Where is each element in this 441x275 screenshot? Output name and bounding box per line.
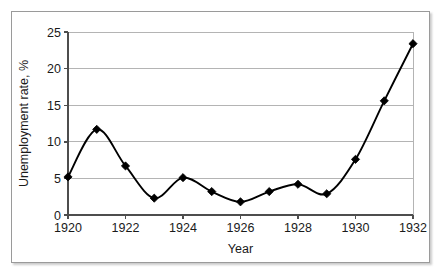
data-point-marker <box>93 125 101 133</box>
data-point-marker <box>150 194 158 202</box>
data-point-marker <box>380 97 388 105</box>
y-axis-title: Unemployment rate, % <box>17 60 31 187</box>
data-point-marker <box>208 187 216 195</box>
axes <box>68 32 413 215</box>
data-markers <box>64 40 417 206</box>
unemployment-line-chart: 05101520251920192219241926192819301932Ye… <box>12 12 429 262</box>
y-tick-label: 15 <box>47 99 61 113</box>
chart-frame: 05101520251920192219241926192819301932Ye… <box>11 11 430 263</box>
x-tick-label: 1924 <box>169 221 197 235</box>
x-tick-label: 1932 <box>399 221 427 235</box>
data-point-marker <box>265 187 273 195</box>
data-point-marker <box>409 40 417 48</box>
x-axis-ticks: 1920192219241926192819301932 <box>54 215 427 235</box>
x-tick-label: 1920 <box>54 221 82 235</box>
y-tick-label: 5 <box>54 172 61 186</box>
grid-lines <box>68 32 413 215</box>
y-tick-label: 10 <box>47 135 61 149</box>
chart-figure: 05101520251920192219241926192819301932Ye… <box>0 0 441 275</box>
x-tick-label: 1922 <box>112 221 140 235</box>
x-axis-title: Year <box>228 242 253 256</box>
data-point-marker <box>236 198 244 206</box>
x-tick-label: 1930 <box>342 221 370 235</box>
x-tick-label: 1928 <box>284 221 312 235</box>
y-axis-ticks: 0510152025 <box>47 26 68 223</box>
y-tick-label: 20 <box>47 62 61 76</box>
data-point-marker <box>323 190 331 198</box>
y-tick-label: 25 <box>47 26 61 40</box>
x-tick-label: 1926 <box>227 221 255 235</box>
data-point-marker <box>179 174 187 182</box>
data-point-marker <box>294 180 302 188</box>
data-point-marker <box>64 173 72 181</box>
